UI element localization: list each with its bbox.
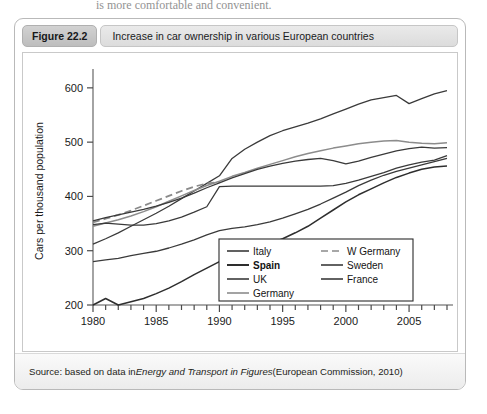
- series-line-germany: [93, 141, 447, 227]
- x-tick-label: 2000: [334, 315, 358, 327]
- y-tick-label: 200: [65, 299, 83, 311]
- figure-title: Increase in car ownership in various Eur…: [100, 25, 458, 47]
- figure-source-caption: Source: based on data in Energy and Tran…: [15, 353, 465, 389]
- figure-number-badge: Figure 22.2: [22, 25, 97, 47]
- clipped-page-text: is more comfortable and convenient.: [96, 0, 396, 11]
- x-tick-label: 1985: [144, 315, 168, 327]
- figure-card: Figure 22.2 Increase in car ownership in…: [14, 18, 466, 390]
- source-publication-title: Energy and Transport in Figures: [136, 366, 273, 377]
- series-line-france: [93, 147, 447, 221]
- source-prefix: Source: based on data in: [29, 366, 136, 377]
- series-line-italy: [93, 91, 447, 245]
- source-suffix: (European Commission, 2010): [273, 366, 403, 377]
- x-tick-label: 1995: [270, 315, 294, 327]
- chart-plot-area: 200300400500600198019851990199520002005C…: [22, 52, 458, 352]
- legend-label-uk: UK: [253, 274, 267, 285]
- y-tick-label: 600: [65, 82, 83, 94]
- legend-label-france: France: [347, 274, 379, 285]
- legend-label-germany: Germany: [253, 288, 294, 299]
- legend-label-italy: Italy: [253, 246, 271, 257]
- x-tick-label: 2005: [397, 315, 421, 327]
- y-tick-label: 500: [65, 136, 83, 148]
- figure-header: Figure 22.2 Increase in car ownership in…: [22, 25, 458, 47]
- legend-label-sweden: Sweden: [347, 260, 383, 271]
- legend-label-w-germany: W Germany: [347, 246, 400, 257]
- legend-label-spain: Spain: [253, 260, 280, 271]
- y-tick-label: 400: [65, 190, 83, 202]
- y-axis-title: Cars per thousand population: [33, 122, 45, 260]
- line-chart: 200300400500600198019851990199520002005C…: [23, 53, 457, 351]
- x-tick-label: 1980: [81, 315, 105, 327]
- y-tick-label: 300: [65, 245, 83, 257]
- x-tick-label: 1990: [207, 315, 231, 327]
